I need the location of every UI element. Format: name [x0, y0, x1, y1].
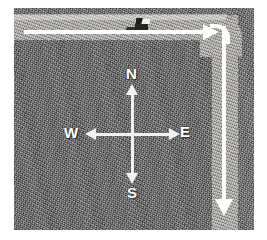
compass-label-north: N — [126, 66, 137, 81]
compass-north-arrow-icon — [126, 84, 138, 95]
compass-label-south: S — [127, 185, 137, 200]
southbound-route-arrow-head-icon — [215, 199, 233, 216]
compass-horizontal-axis — [94, 133, 172, 136]
roadway-highlight-edge — [14, 14, 226, 20]
compass-south-arrow-icon — [126, 173, 138, 184]
compass-rose: N S W E — [76, 70, 192, 198]
compass-east-arrow-icon — [169, 128, 180, 140]
aerial-photo: N S W E — [14, 8, 254, 230]
southbound-route-arrow-shaft — [222, 26, 226, 204]
eastbound-route-arrow-shaft — [24, 30, 208, 34]
vehicle-highlight — [141, 19, 150, 24]
compass-label-east: E — [180, 124, 190, 139]
compass-label-west: W — [64, 125, 78, 140]
screenshot-root: N S W E — [0, 0, 267, 240]
compass-west-arrow-icon — [85, 128, 96, 140]
